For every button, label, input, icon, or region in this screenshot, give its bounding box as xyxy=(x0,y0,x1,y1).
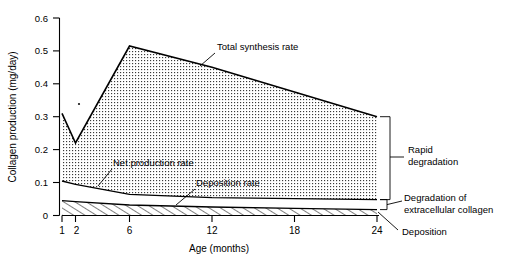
rapid-degradation-label-line1: Rapid xyxy=(408,144,433,155)
x-tick-label: 12 xyxy=(206,225,218,236)
deposition-label: Deposition xyxy=(402,226,447,237)
deposition-rate-label: Deposition rate xyxy=(196,177,260,188)
y-axis-title: Collagen production (mg/day) xyxy=(7,51,18,182)
total-synthesis-label: Total synthesis rate xyxy=(217,41,298,52)
y-tick-label: 0.6 xyxy=(35,13,48,24)
print-speck xyxy=(78,103,80,105)
x-tick-label: 24 xyxy=(371,225,383,236)
x-tick-label: 18 xyxy=(289,225,301,236)
y-tick-label: 0.2 xyxy=(35,144,48,155)
extracellular-degradation-label-line2: extracellular collagen xyxy=(404,204,493,215)
y-tick-label: 0.3 xyxy=(35,111,48,122)
y-tick-label: 0.5 xyxy=(35,45,48,56)
x-tick-label: 6 xyxy=(127,225,133,236)
x-tick-label: 1 xyxy=(59,225,65,236)
x-axis-title: Age (months) xyxy=(189,243,249,254)
y-tick-label: 0.1 xyxy=(35,177,48,188)
rapid-degradation-label-line2: degradation xyxy=(408,156,458,167)
y-tick-label: 0 xyxy=(43,210,48,221)
x-tick-label: 2 xyxy=(74,225,80,236)
collagen-production-chart: 0.6 0.5 0.4 0.3 0.2 0.1 0 Collagen produ… xyxy=(0,0,507,262)
net-production-label: Net production rate xyxy=(113,157,194,168)
extracellular-degradation-label-line1: Degradation of xyxy=(404,192,467,203)
y-tick-label: 0.4 xyxy=(35,78,48,89)
